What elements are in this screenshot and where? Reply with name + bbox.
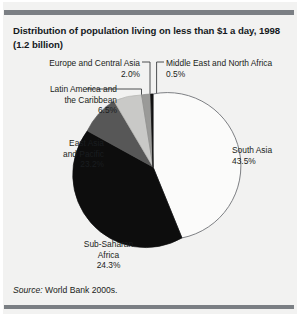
label-east-asia-pacific: East Asia and Pacific 23.2%	[18, 138, 104, 170]
source-value: World Bank 2000s.	[43, 285, 118, 295]
label-latin-america-caribbean: Latin America and the Caribbean 6.5%	[6, 84, 117, 116]
label-sub-saharan-africa: Sub-Saharan Africa 24.3%	[56, 239, 161, 271]
pie-slices	[73, 93, 241, 248]
leader-line-middle-east-north-africa	[157, 62, 164, 96]
leader-line-europe-central-asia	[142, 62, 150, 97]
figure-panel: Distribution of population living on les…	[0, 0, 302, 319]
label-europe-central-asia: Europe and Central Asia 2.0%	[18, 58, 140, 79]
label-middle-east-north-africa: Middle East and North Africa 0.5%	[166, 58, 296, 79]
source-note: Source: World Bank 2000s.	[13, 285, 117, 295]
source-label: Source:	[13, 285, 43, 295]
label-south-asia: South Asia 43.5%	[232, 145, 298, 166]
